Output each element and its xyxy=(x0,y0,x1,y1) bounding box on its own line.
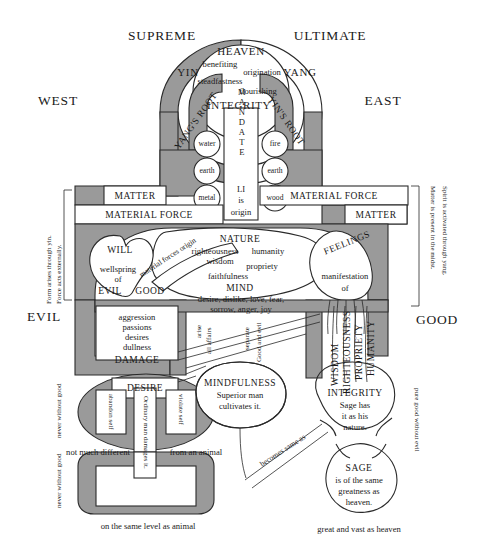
label-ordinary-man: Ordinary man damages it. xyxy=(141,396,149,476)
label-yang: YANG xyxy=(284,66,317,78)
margin-note-left-1: Form arises through yin. xyxy=(46,196,54,304)
sage-line-2: greatness as xyxy=(338,487,379,497)
label-wellspring-of: of xyxy=(114,275,121,285)
bottom-note-left: on the same level as animal xyxy=(101,522,196,532)
margin-note-right-1: Matter is present in the midst. xyxy=(428,186,436,306)
label-yin: YIN xyxy=(177,66,198,78)
element-earth-left: earth xyxy=(199,167,214,176)
bottom-note-left-mid: not much different xyxy=(66,448,130,458)
virtue-col-humanity: HUMANITY xyxy=(366,310,377,376)
label-east: EAST xyxy=(365,93,402,108)
box-material-force-right: MATERIAL FORCE xyxy=(290,191,378,202)
label-nature: NATURE xyxy=(220,234,260,245)
element-earth-right: earth xyxy=(267,167,282,176)
label-axis-good: GOOD xyxy=(416,312,458,327)
diagram-canvas: .sh{fill:#9a9a9a;stroke:#2a2a2a;stroke-w… xyxy=(0,0,483,558)
label-arise: arise xyxy=(196,310,204,338)
virtue-origination: origination xyxy=(243,68,281,78)
element-fire: fire xyxy=(270,140,281,149)
label-will-good: GOOD xyxy=(135,286,164,297)
nature-faithfulness: faithfulness xyxy=(208,272,248,282)
label-ultimate: ULTIMATE xyxy=(294,28,367,43)
element-water: water xyxy=(199,140,216,149)
label-all-affairs: all affairs xyxy=(206,310,214,354)
damage-dullness: dullness xyxy=(123,343,151,353)
integrity-sage-line-1: Sage has xyxy=(340,401,370,411)
label-damage: DAMAGE xyxy=(115,355,160,366)
label-sage: SAGE xyxy=(346,463,373,474)
label-mindfulness: MINDFULNESS xyxy=(204,378,276,389)
side-note-left-upper: never without good xyxy=(56,392,64,438)
element-wood: wood xyxy=(267,194,284,203)
label-good-and-evil: Good and evil xyxy=(256,310,264,362)
label-axis-evil: EVIL xyxy=(27,309,61,324)
mindfulness-line-1: Superior man xyxy=(217,391,264,401)
side-note-right: pure good without evil xyxy=(412,388,420,446)
margin-note-right-2: Spirit is activated through yang. xyxy=(440,186,448,306)
nature-humanity: humanity xyxy=(252,247,284,257)
nature-wisdom: wisdom xyxy=(206,257,233,267)
nature-propriety: propriety xyxy=(246,262,278,272)
label-mandate: MANDATE xyxy=(236,87,246,157)
label-will: WILL xyxy=(107,245,133,256)
virtue-col-wisdom: WISDOM xyxy=(330,316,341,386)
box-material-force-left: MATERIAL FORCE xyxy=(105,210,193,221)
label-integrity-sage: INTEGRITY xyxy=(327,388,382,399)
mindfulness-line-2: cultivates it. xyxy=(219,402,261,412)
label-li: LI xyxy=(237,185,245,195)
label-desire: DESIRE xyxy=(127,383,163,394)
label-manifestation-of: of xyxy=(341,284,348,294)
label-will-evil: EVIL xyxy=(98,286,122,297)
label-abandon-self: abandon self xyxy=(106,394,114,432)
virtue-col-righteousness: RIGHTEOUSNESS xyxy=(342,312,353,394)
label-violate-self: violate self xyxy=(176,394,184,432)
label-supreme: SUPREME xyxy=(128,28,196,43)
side-note-left-lower: never without good xyxy=(56,462,64,508)
sage-line-1: is of the same xyxy=(335,476,383,486)
virtue-benefiting: benefiting xyxy=(203,60,238,70)
label-li-origin: origin xyxy=(231,208,252,218)
margin-note-left-2: Force acts externally. xyxy=(56,196,64,304)
label-manifestation: manifestation xyxy=(322,272,369,282)
bottom-note-right: great and vast as heaven xyxy=(317,525,401,535)
element-metal: metal xyxy=(199,194,216,203)
label-west: WEST xyxy=(38,93,78,108)
label-heaven: HEAVEN xyxy=(217,45,264,57)
label-separate: separate xyxy=(244,310,252,350)
bottom-note-left-mid-2: from an animal xyxy=(170,448,223,458)
sage-line-3: heaven. xyxy=(346,498,372,508)
box-matter-left: MATTER xyxy=(115,191,156,202)
label-li-is: is xyxy=(238,196,244,206)
integrity-sage-line-2: it as his xyxy=(342,412,368,422)
box-matter-right: MATTER xyxy=(356,210,397,221)
virtue-steadfastness: steadfastness xyxy=(198,77,243,87)
label-mind: MIND xyxy=(226,283,253,294)
integrity-sage-line-3: nature. xyxy=(343,423,367,433)
virtue-col-propriety: PROPRIETY xyxy=(354,312,365,380)
